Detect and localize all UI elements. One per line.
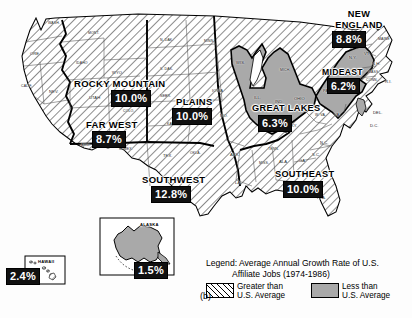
- state-label-ri: R.I.: [385, 80, 392, 84]
- region-name-great-lakes: GREAT LAKES: [252, 104, 320, 113]
- state-label-mass: MASS.: [368, 71, 379, 75]
- region-value-chip-hawaii: 2.4%: [6, 268, 40, 285]
- region-value-chip-new-england: 8.8%: [332, 31, 366, 48]
- legend-item-text: Greater than U.S. Average: [237, 282, 285, 301]
- state-label-maine: MAINE: [378, 38, 390, 42]
- state-label-sc: S.C.: [312, 153, 320, 157]
- region-name-plains: PLAINS: [176, 97, 213, 107]
- state-label-mich: MICH.: [280, 69, 290, 73]
- state-label-ark: ARK.: [230, 153, 240, 157]
- state-label-calif: CALIF.: [21, 85, 32, 89]
- state-label-wis: WIS.: [236, 61, 245, 65]
- region-name-far-west: FAR WEST: [86, 120, 137, 130]
- legend-less-line1: Less than: [342, 282, 378, 291]
- region-name-southeast: SOUTHEAST: [275, 170, 334, 179]
- state-label-ala: ALA.: [279, 160, 288, 164]
- state-label-nh: N.H.: [372, 62, 381, 66]
- legend-title-line1: Legend: Average Annual Growth Rate of U.…: [206, 258, 379, 268]
- region-value-chip-plains: 10.0%: [172, 108, 212, 125]
- region-value-chip-far-west: 8.7%: [92, 131, 126, 148]
- state-label-ga: GA.: [299, 159, 306, 163]
- region-name-line1: NEW: [348, 9, 370, 19]
- state-label-dc: D.C.: [370, 124, 379, 128]
- legend-greater-line2: U.S. Average: [237, 291, 285, 300]
- state-label-tenn: TENN.: [268, 148, 279, 152]
- legend-item-greater-than-average: Greater than U.S. Average: [206, 282, 285, 301]
- region-value-chip-rocky-mountain: 10.0%: [111, 90, 151, 107]
- state-label-nev: NEV.: [49, 90, 59, 94]
- state-label-nc: N.C.: [320, 141, 329, 145]
- state-label-okla: OKLA.: [190, 152, 201, 156]
- figure-label: (b): [200, 291, 211, 301]
- state-label-nebr: NEBR.: [160, 95, 171, 99]
- state-label-utah: UTAH: [89, 96, 100, 100]
- state-label-la: LA.: [235, 181, 241, 185]
- state-label-ohio: OHIO: [294, 97, 305, 101]
- region-value-chip-mideast: 6.2%: [327, 78, 360, 94]
- legend-item-text: Less than U.S. Average: [342, 282, 390, 301]
- legend-title: Legend: Average Annual Growth Rate of U.…: [206, 258, 406, 280]
- state-label-sdak: S. DAK.: [160, 68, 173, 72]
- state-label-conn: CONN.: [366, 79, 378, 83]
- region-name-mideast: MIDEAST: [322, 68, 363, 77]
- figure-us-affiliate-jobs-growth-map: WASH.ORE.CALIF.NEV.IDAHOMONT.WYO.UTAHCOL…: [0, 0, 412, 318]
- state-label-ore: ORE.: [30, 52, 40, 56]
- state-label-vt: VT: [364, 52, 369, 56]
- legend-greater-line1: Greater than: [237, 282, 283, 291]
- region-value-chip-southeast: 10.0%: [283, 181, 323, 198]
- legend-item-less-than-average: Less than U.S. Average: [311, 282, 390, 301]
- state-label-del: DEL.: [373, 111, 383, 115]
- state-label-minn: MINN.: [204, 40, 214, 44]
- state-label-ariz: ARIZ.: [81, 144, 90, 148]
- region-value-chip-great-lakes: 6.3%: [258, 115, 292, 132]
- state-label-wash: WASH.: [48, 22, 60, 26]
- region-name-alaska: ALASKA: [140, 223, 159, 227]
- legend-less-line2: U.S. Average: [342, 291, 390, 300]
- region-name-hawaii: HAWAII: [38, 260, 54, 264]
- gray-swatch-icon: [311, 283, 339, 298]
- region-name-line2: ENGLAND: [335, 20, 383, 30]
- legend-items: Greater than U.S. Average Less than U.S.…: [206, 282, 406, 304]
- region-name-rocky-mountain: ROCKY MOUNTAIN: [74, 79, 165, 89]
- state-label-ill: ILL.: [254, 96, 261, 100]
- region-name-new-england: NEWENGLAND: [332, 9, 386, 31]
- region-value-chip-alaska: 1.5%: [134, 262, 168, 279]
- legend-title-line2: Affiliate Jobs (1974-1986): [206, 269, 406, 280]
- state-label-ky: KY.: [291, 124, 297, 128]
- state-label-tex: TEX.: [163, 154, 173, 158]
- state-label-ndak: N. DAK.: [160, 39, 173, 43]
- state-label-mo: MO.: [220, 114, 228, 118]
- state-label-ny: N.Y.: [349, 56, 357, 60]
- state-label-wva: W. VA.: [315, 114, 326, 118]
- state-label-va: VA.: [334, 113, 341, 117]
- state-label-wyo: WYO.: [112, 71, 123, 75]
- legend: Legend: Average Annual Growth Rate of U.…: [206, 258, 406, 304]
- state-label-miss: MISS.: [259, 162, 269, 166]
- region-value-chip-southwest: 12.8%: [151, 186, 191, 203]
- state-label-idaho: IDAHO: [76, 62, 88, 66]
- state-label-nmex: N. MEX.: [119, 148, 133, 152]
- state-label-iowa: IOWA: [212, 89, 223, 93]
- state-label-colo: COLO.: [123, 110, 134, 114]
- region-name-southwest: SOUTHWEST: [142, 175, 205, 185]
- state-label-mont: MONT.: [88, 32, 99, 36]
